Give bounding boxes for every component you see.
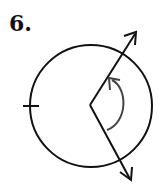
lower-ray bbox=[90, 105, 130, 179]
circle-angle-diagram bbox=[0, 0, 162, 184]
